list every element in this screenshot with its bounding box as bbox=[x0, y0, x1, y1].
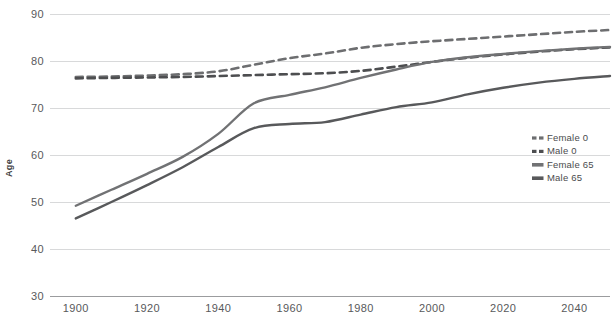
legend-label: Male 65 bbox=[547, 172, 582, 183]
legend-item-female-65[interactable]: Female 65 bbox=[532, 159, 594, 170]
x-tick-label: 1900 bbox=[63, 302, 89, 314]
x-tick-label: 2000 bbox=[419, 302, 445, 314]
y-tick-label: 90 bbox=[31, 8, 44, 20]
x-tick-label: 1960 bbox=[276, 302, 302, 314]
y-axis-title: Age bbox=[4, 159, 14, 177]
legend-label: Male 0 bbox=[547, 145, 577, 156]
y-tick-label: 40 bbox=[31, 243, 44, 255]
series-line-male-65 bbox=[76, 76, 610, 218]
gridlines bbox=[50, 15, 610, 297]
y-tick-label: 30 bbox=[31, 290, 44, 302]
x-tick-label: 1920 bbox=[134, 302, 160, 314]
y-tick-label: 60 bbox=[31, 149, 44, 161]
series-line-female-0 bbox=[76, 30, 610, 77]
legend-label: Female 65 bbox=[547, 159, 594, 170]
chart-legend: Female 0Male 0Female 65Male 65 bbox=[532, 132, 594, 183]
legend-item-male-0[interactable]: Male 0 bbox=[532, 145, 577, 156]
x-tick-label: 1980 bbox=[348, 302, 374, 314]
x-tick-label: 2020 bbox=[490, 302, 516, 314]
y-tick-label: 80 bbox=[31, 55, 44, 67]
chart-canvas: 30405060708090 1900192019401960198020002… bbox=[0, 0, 615, 326]
y-tick-label: 70 bbox=[31, 102, 44, 114]
x-tick-label: 1940 bbox=[205, 302, 231, 314]
line-chart: 30405060708090 1900192019401960198020002… bbox=[0, 0, 615, 326]
series-lines bbox=[76, 30, 610, 218]
x-axis-tick-labels: 19001920194019601980200020202040 bbox=[63, 302, 588, 314]
x-tick-label: 2040 bbox=[561, 302, 587, 314]
legend-item-female-0[interactable]: Female 0 bbox=[532, 132, 588, 143]
y-tick-label: 50 bbox=[31, 196, 44, 208]
legend-item-male-65[interactable]: Male 65 bbox=[532, 172, 582, 183]
legend-label: Female 0 bbox=[547, 132, 588, 143]
y-axis-tick-labels: 30405060708090 bbox=[31, 8, 44, 302]
